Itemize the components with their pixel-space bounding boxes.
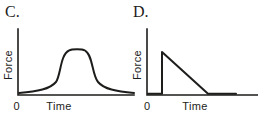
panel-d-y-axis-label: Force — [131, 50, 143, 80]
figure-canvas: C. Force 0 Time D. Force 0 Time — [0, 0, 258, 113]
panel-d-label: D. — [133, 3, 149, 20]
panel-c: C. Force 0 Time — [2, 3, 134, 112]
panel-d-origin-tick: 0 — [144, 100, 150, 112]
panel-d-axes — [147, 29, 258, 95]
panel-c-curve — [19, 49, 134, 93]
panel-d-curve — [148, 52, 236, 94]
panel-c-label: C. — [5, 3, 20, 20]
panel-c-x-axis-label: Time — [46, 100, 72, 112]
force-time-figure: C. Force 0 Time D. Force 0 Time — [0, 0, 258, 113]
panel-c-y-axis-label: Force — [2, 50, 14, 80]
panel-c-axes — [18, 29, 134, 95]
panel-c-origin-tick: 0 — [13, 100, 19, 112]
panel-d-x-axis-label: Time — [182, 100, 208, 112]
panel-d: D. Force 0 Time — [131, 3, 258, 112]
